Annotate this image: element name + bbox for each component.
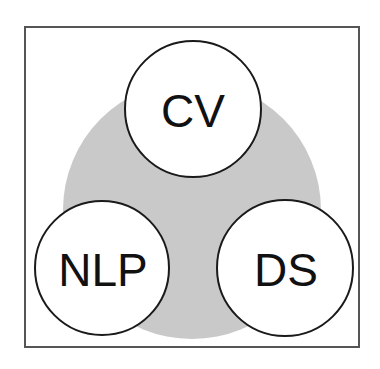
circle-ds-label: DS	[254, 244, 318, 296]
venn-diagram: CV NLP DS	[0, 0, 380, 369]
circle-nlp-label: NLP	[58, 244, 147, 296]
circle-cv-label: CV	[161, 85, 225, 137]
figure-root: CV NLP DS	[0, 0, 380, 369]
